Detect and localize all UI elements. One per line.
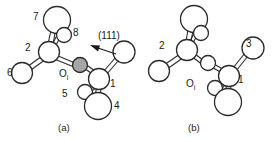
direction-arrow-head-icon xyxy=(90,45,100,52)
atom-8 xyxy=(57,28,72,43)
atom-label-b-1: 1 xyxy=(238,75,244,85)
atom-1 xyxy=(89,69,110,90)
panel-caption-b: (b) xyxy=(188,123,200,133)
oxygen-symbol-a: O xyxy=(59,68,67,79)
atom-label-b-3: 3 xyxy=(246,39,252,49)
atom-label-4: 4 xyxy=(114,101,120,111)
atom-4 xyxy=(85,93,112,120)
oxygen-symbol-b: O xyxy=(186,78,194,89)
atom-label-7: 7 xyxy=(33,12,39,22)
panel-caption-a: (a) xyxy=(58,123,70,133)
direction-label-111: (111) xyxy=(98,31,120,41)
atom-b-bottom xyxy=(215,89,242,116)
oxygen-interstitial-label-b: Oi xyxy=(186,79,195,93)
atom-2 xyxy=(39,42,60,63)
atom-b-left xyxy=(149,61,170,82)
atom-oxygen-interstitial xyxy=(73,58,88,73)
oxygen-interstitial-label-a: Oi xyxy=(59,69,68,83)
atom-b-oxygen-interstitial xyxy=(201,56,216,71)
oxygen-subscript-b: i xyxy=(194,84,196,91)
oxygen-subscript-a: i xyxy=(67,74,69,81)
atom-label-8: 8 xyxy=(73,28,79,38)
atom-6 xyxy=(12,63,33,84)
atom-label-b-2: 2 xyxy=(159,41,165,51)
molecular-diagram-figure: 7 8 2 6 5 1 4 Oi (111) (a) xyxy=(0,0,272,141)
atom-b-small-upper xyxy=(194,26,209,41)
atom-b-2 xyxy=(177,40,198,61)
panel-b-structure xyxy=(140,0,272,125)
atom-label-6: 6 xyxy=(7,68,13,78)
atom-label-5: 5 xyxy=(62,89,68,99)
atom-label-1: 1 xyxy=(110,79,116,89)
atom-3 xyxy=(113,41,135,63)
atom-label-2: 2 xyxy=(25,43,31,53)
